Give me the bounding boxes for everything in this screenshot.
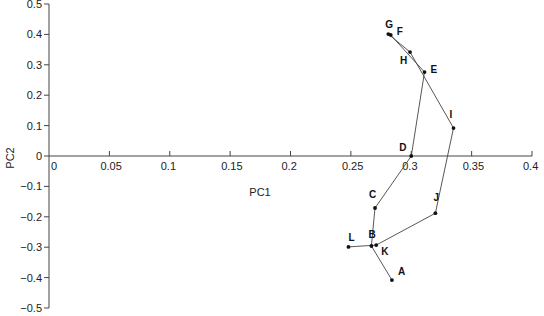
point-label: D xyxy=(399,142,406,153)
point-marker xyxy=(347,245,351,249)
data-point-i: I xyxy=(450,109,456,130)
x-tick-label: 0.2 xyxy=(282,160,297,172)
point-marker xyxy=(374,243,378,247)
y-tick-label: 0.3 xyxy=(27,59,42,71)
y-tick-label: 0.5 xyxy=(27,0,42,10)
y-tick-label: 0.1 xyxy=(27,120,42,132)
x-tick-label: 0.4 xyxy=(523,160,538,172)
y-axis-title: PC2 xyxy=(4,147,16,168)
y-tick-label: −0.5 xyxy=(20,302,42,314)
data-point-a: A xyxy=(390,266,405,282)
x-tick-label: 0.05 xyxy=(100,160,121,172)
data-point-e: E xyxy=(423,64,438,75)
data-point-j: J xyxy=(433,192,439,215)
x-tick-label: 0.1 xyxy=(161,160,176,172)
point-label: F xyxy=(397,26,403,37)
point-marker xyxy=(390,278,394,282)
data-point-h: H xyxy=(400,50,412,66)
point-marker xyxy=(434,211,438,215)
point-label: H xyxy=(400,55,407,66)
y-tick-label: 0.2 xyxy=(27,89,42,101)
point-label: C xyxy=(369,189,376,200)
x-axis: 00.050.10.150.20.250.30.350.4 xyxy=(49,151,538,172)
y-tick-label: 0 xyxy=(36,150,42,162)
x-tick-label: 0.15 xyxy=(221,160,242,172)
point-label: I xyxy=(450,109,453,120)
x-tick-label: 0.25 xyxy=(342,160,363,172)
x-tick-label: 0.35 xyxy=(463,160,484,172)
y-tick-label: −0.1 xyxy=(20,180,42,192)
point-marker xyxy=(386,32,390,36)
point-label: G xyxy=(385,19,393,30)
point-marker xyxy=(409,154,413,158)
point-label: E xyxy=(431,64,438,75)
y-tick-label: 0.4 xyxy=(27,28,42,40)
data-point-c: C xyxy=(369,189,377,210)
x-axis-title: PC1 xyxy=(249,186,270,198)
y-tick-label: −0.2 xyxy=(20,211,42,223)
y-tick-label: −0.4 xyxy=(20,272,42,284)
data-point-g: G xyxy=(385,19,393,36)
y-tick-label: −0.3 xyxy=(20,241,42,253)
point-marker xyxy=(408,50,412,54)
point-marker xyxy=(423,70,427,74)
point-label: B xyxy=(368,229,375,240)
point-label: L xyxy=(348,232,354,243)
point-label: K xyxy=(381,246,389,257)
trajectory-line xyxy=(349,34,454,280)
point-marker xyxy=(373,206,377,210)
point-marker xyxy=(452,126,456,130)
point-label: J xyxy=(433,192,439,203)
y-axis: 0.50.40.30.20.10−0.1−0.2−0.3−0.4−0.5 xyxy=(20,0,49,314)
pca-line-scatter-chart: 0.50.40.30.20.10−0.1−0.2−0.3−0.4−0.5 00.… xyxy=(0,0,544,316)
data-points: ABCDEFGHIJKL xyxy=(347,19,456,282)
point-label: A xyxy=(398,266,405,277)
x-tick-label: 0 xyxy=(51,160,57,172)
point-marker xyxy=(370,244,374,248)
